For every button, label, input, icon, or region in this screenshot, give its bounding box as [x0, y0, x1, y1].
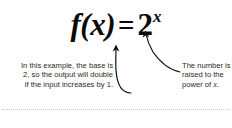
arrow-to-base-icon	[113, 45, 131, 94]
annotation-right-line-1: The number is	[182, 61, 232, 70]
annotation-right-line-3-prefix: power of	[182, 80, 213, 89]
formula-equals-sign: =	[115, 9, 138, 41]
figure-container: f(x)=2x In this example, the base is 2, …	[0, 0, 232, 128]
math-formula: f(x)=2x	[0, 8, 232, 40]
formula-exponent: x	[153, 7, 162, 26]
annotation-left-line-1: In this example, the base is	[1, 61, 113, 70]
dotted-divider	[2, 109, 230, 111]
annotation-right-line-3-suffix: .	[217, 80, 219, 89]
annotation-right-text: The number is raised to the power of x.	[182, 61, 232, 89]
annotation-right-line-2: raised to the	[182, 70, 232, 79]
annotation-right-line-3: power of x.	[182, 80, 232, 89]
formula-function-name: f(x)	[70, 7, 114, 42]
annotation-left-line-3: if the input increases by 1.	[1, 80, 113, 89]
annotation-left-text: In this example, the base is 2, so the o…	[1, 61, 113, 89]
annotation-left-line-2: 2, so the output will double	[1, 70, 113, 79]
formula-base: 2	[138, 7, 154, 42]
